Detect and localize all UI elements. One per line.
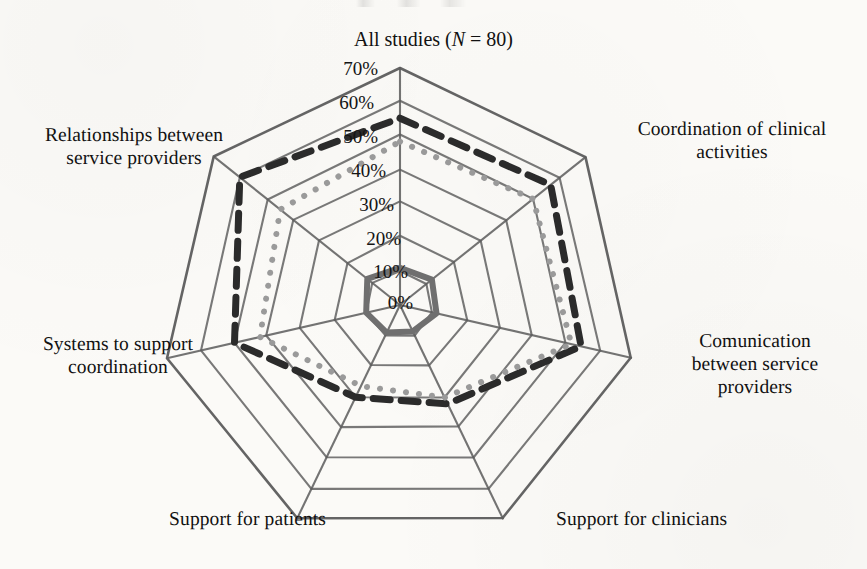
tick-label-70: 70% xyxy=(322,58,378,80)
tick-label-40: 40% xyxy=(330,160,386,182)
axis-label-coordination: Coordination of clinical activities xyxy=(608,118,856,164)
tick-label-30: 30% xyxy=(338,194,394,216)
tick-label-10: 10% xyxy=(352,261,408,283)
grid-spoke-3 xyxy=(400,305,503,519)
radar-chart: All studies (N = 80) 70% 60% 50% 40% 30%… xyxy=(0,0,867,569)
axis-label-relationships: Relationships between service providers xyxy=(14,124,254,170)
axis-label-systems: Systems to support coordination xyxy=(12,333,224,379)
axis-label-support-patients: Support for patients xyxy=(36,508,326,531)
radar-plot-svg xyxy=(0,0,867,569)
tick-label-20: 20% xyxy=(345,228,401,250)
tick-label-50: 50% xyxy=(322,126,378,148)
axis-label-support-clinicians: Support for clinicians xyxy=(556,508,846,531)
tick-label-60: 60% xyxy=(318,92,374,114)
axis-label-comunication: Comunication between service providers xyxy=(655,330,855,399)
tick-label-0: 0% xyxy=(357,292,413,314)
